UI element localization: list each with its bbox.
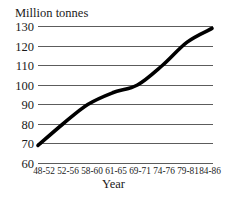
y-tick-label-60: 60 [22, 157, 35, 171]
y-axis-tick-labels: 130 120 110 100 90 80 70 60 [15, 20, 34, 171]
line-chart-plot: 130 120 110 100 90 80 70 60 48-52 52-56 … [0, 0, 227, 197]
y-tick-label-120: 120 [15, 40, 34, 54]
x-tick-label-5: 74-76 [153, 166, 175, 176]
x-tick-label-3: 61-65 [105, 166, 127, 176]
y-tick-label-130: 130 [15, 20, 34, 34]
x-tick-label-1: 52-56 [57, 166, 79, 176]
x-tick-label-4: 69-71 [129, 166, 151, 176]
y-tick-label-110: 110 [16, 59, 34, 73]
x-tick-label-7: 84-86 [199, 166, 221, 176]
y-tick-label-80: 80 [22, 118, 35, 132]
x-axis-tick-labels: 48-52 52-56 58-60 61-65 69-71 74-76 79-8… [33, 166, 221, 176]
y-tick-label-70: 70 [22, 137, 35, 151]
x-tick-label-2: 58-60 [81, 166, 103, 176]
gridlines-group [38, 27, 213, 164]
x-axis-title: Year [0, 177, 227, 191]
x-tick-label-0: 48-52 [33, 166, 55, 176]
y-tick-label-90: 90 [22, 98, 35, 112]
x-tick-label-6: 79-81 [177, 166, 199, 176]
chart-container: Million tonnes 130 120 110 100 90 80 70 … [0, 0, 227, 197]
y-tick-label-100: 100 [15, 79, 34, 93]
